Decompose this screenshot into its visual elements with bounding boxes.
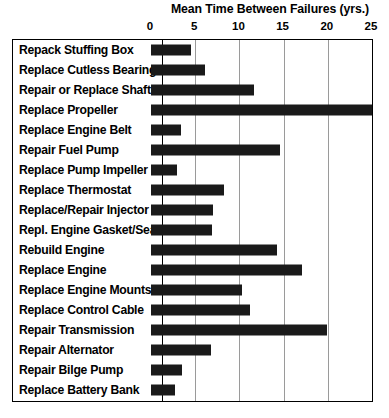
value-bar <box>151 105 372 116</box>
value-bar <box>151 305 250 316</box>
chart-row: Repair Fuel Pump <box>13 140 372 160</box>
value-bar <box>151 345 211 356</box>
value-bar <box>151 165 177 176</box>
category-label: Repair Transmission <box>19 323 134 337</box>
chart-title: Mean Time Between Failures (yrs.) <box>162 2 378 16</box>
category-label: Replace Propeller <box>19 103 118 117</box>
value-bar <box>151 125 181 136</box>
value-bar <box>151 245 277 256</box>
x-tick-label-0: 0 <box>147 20 153 32</box>
plot-area: Repack Stuffing BoxReplace Cutless Beari… <box>12 39 373 402</box>
category-label: Repack Stuffing Box <box>19 43 133 57</box>
category-label: Rebuild Engine <box>19 243 104 257</box>
mtbf-bar-chart: Mean Time Between Failures (yrs.) 051015… <box>0 0 389 418</box>
chart-row: Replace Engine <box>13 260 372 280</box>
chart-row: Repair or Replace Shaft <box>13 80 372 100</box>
category-label: Replace Pump Impeller <box>19 163 148 177</box>
chart-row: Replace Engine Belt <box>13 120 372 140</box>
chart-row: Replace/Repair Injector <box>13 200 372 220</box>
x-axis-tick-labels: 0510152025 <box>0 20 389 36</box>
chart-row: Repair Transmission <box>13 320 372 340</box>
chart-row: Replace Thermostat <box>13 180 372 200</box>
value-bar <box>151 65 205 76</box>
value-bar <box>151 205 213 216</box>
value-bar <box>151 85 254 96</box>
category-label: Replace Engine Mounts <box>19 283 151 297</box>
chart-row: Repair Alternator <box>13 340 372 360</box>
x-tick-label-10: 10 <box>232 20 245 32</box>
chart-row: Repack Stuffing Box <box>13 40 372 60</box>
value-bar <box>151 145 280 156</box>
x-tick-label-5: 5 <box>191 20 197 32</box>
chart-rows: Repack Stuffing BoxReplace Cutless Beari… <box>13 40 372 401</box>
value-bar <box>151 225 212 236</box>
value-bar <box>151 185 224 196</box>
chart-row: Replace Propeller <box>13 100 372 120</box>
category-label: Repair Bilge Pump <box>19 363 123 377</box>
value-bar <box>151 385 175 396</box>
x-tick-label-25: 25 <box>365 20 378 32</box>
category-label: Repair or Replace Shaft <box>19 83 151 97</box>
category-label: Replace/Repair Injector <box>19 203 149 217</box>
category-label: Replace Control Cable <box>19 303 144 317</box>
category-label: Replace Engine <box>19 263 106 277</box>
chart-row: Repair Bilge Pump <box>13 360 372 380</box>
x-tick-label-20: 20 <box>320 20 333 32</box>
x-tick-label-15: 15 <box>276 20 289 32</box>
category-label: Repair Alternator <box>19 343 114 357</box>
chart-row: Replace Engine Mounts <box>13 280 372 300</box>
value-bar <box>151 45 191 56</box>
category-label: Replace Thermostat <box>19 183 131 197</box>
category-label: Repair Fuel Pump <box>19 143 119 157</box>
value-bar <box>151 265 302 276</box>
value-bar <box>151 325 327 336</box>
category-label: Replace Battery Bank <box>19 383 139 397</box>
category-label: Replace Engine Belt <box>19 123 131 137</box>
chart-row: Replace Pump Impeller <box>13 160 372 180</box>
chart-row: Rebuild Engine <box>13 240 372 260</box>
chart-row: Replace Cutless Bearing <box>13 60 372 80</box>
category-label: Replace Cutless Bearing <box>19 63 156 77</box>
chart-row: Repl. Engine Gasket/Seal <box>13 220 372 240</box>
value-bar <box>151 365 182 376</box>
chart-row: Replace Battery Bank <box>13 380 372 400</box>
chart-row: Replace Control Cable <box>13 300 372 320</box>
value-bar <box>151 285 242 296</box>
category-label: Repl. Engine Gasket/Seal <box>19 223 159 237</box>
